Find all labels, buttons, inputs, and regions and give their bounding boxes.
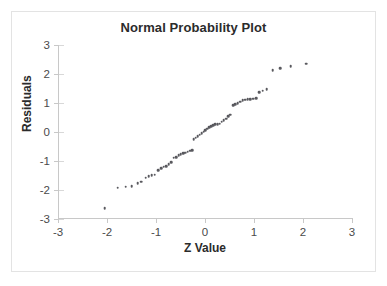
x-axis-tick xyxy=(107,218,108,223)
x-axis-tick xyxy=(303,218,304,223)
x-axis-tick xyxy=(156,218,157,223)
scatter-point xyxy=(265,88,268,91)
scatter-point xyxy=(153,173,156,176)
x-axis-tick xyxy=(254,218,255,223)
y-axis-tick-label: 0 xyxy=(44,126,50,138)
scatter-point xyxy=(170,161,173,164)
x-axis-tick xyxy=(58,218,59,223)
y-axis-tick-label: 3 xyxy=(44,39,50,51)
x-axis-tick-label: -1 xyxy=(151,226,161,238)
y-axis-tick-label: -3 xyxy=(40,213,50,225)
scatter-point xyxy=(262,90,265,93)
scatter-point xyxy=(130,185,133,188)
scatter-point xyxy=(255,97,258,100)
scatter-point xyxy=(116,186,119,189)
scatter-point xyxy=(279,67,282,70)
y-axis-title: Residuals xyxy=(20,75,34,132)
x-axis-tick-label: -3 xyxy=(53,226,63,238)
scatter-point xyxy=(258,91,261,94)
y-axis-tick-label: -2 xyxy=(40,184,50,196)
y-axis-tick-inner xyxy=(59,219,64,220)
y-axis-tick-inner xyxy=(59,45,64,46)
y-axis-tick-label: 1 xyxy=(44,97,50,109)
y-axis-tick-inner xyxy=(59,74,64,75)
x-axis-tick-label: -2 xyxy=(102,226,112,238)
y-axis-tick-inner xyxy=(59,103,64,104)
scatter-point xyxy=(271,69,274,72)
scatter-point xyxy=(289,65,292,68)
scatter-point xyxy=(191,149,194,152)
x-axis-tick-label: 3 xyxy=(349,226,355,238)
x-axis-tick xyxy=(352,218,353,223)
y-axis-tick-inner xyxy=(59,161,64,162)
scatter-point xyxy=(103,207,106,210)
y-axis-tick-inner xyxy=(59,132,64,133)
x-axis-tick-label: 1 xyxy=(251,226,257,238)
scatter-point xyxy=(229,113,232,116)
scatter-point xyxy=(305,63,308,66)
chart-title: Normal Probability Plot xyxy=(12,20,375,35)
x-axis-title: Z Value xyxy=(58,241,352,255)
y-axis-tick-inner xyxy=(59,190,64,191)
y-axis-tick-label: 2 xyxy=(44,68,50,80)
scatter-point xyxy=(124,186,127,189)
plot-area: -3-2-10123 -3-2-10123 xyxy=(58,45,352,219)
y-axis-tick-label: -1 xyxy=(40,155,50,167)
x-axis-tick xyxy=(205,218,206,223)
scatter-point xyxy=(225,117,228,120)
x-axis-tick-label: 0 xyxy=(202,226,208,238)
scatter-point xyxy=(140,181,143,184)
scatter-point xyxy=(137,182,140,185)
x-axis-tick-label: 2 xyxy=(300,226,306,238)
chart-frame: Normal Probability Plot Residuals Z Valu… xyxy=(11,11,376,272)
